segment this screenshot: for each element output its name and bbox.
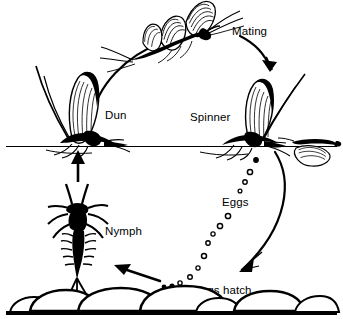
- lifecycle-illustration: Dun: [0, 0, 343, 319]
- egg-dot: [178, 281, 182, 285]
- label-dun: Dun: [105, 109, 126, 121]
- egg-dot: [243, 180, 247, 184]
- label-spinner: Spinner: [190, 111, 230, 123]
- egg-dot: [211, 232, 215, 236]
- label-nymph: Nymph: [105, 225, 142, 237]
- egg-dot: [188, 275, 193, 280]
- egg-dot: [196, 266, 200, 270]
- riverbed-baseline: [6, 311, 337, 315]
- egg-dot: [225, 213, 230, 218]
- egg-dot: [253, 157, 259, 163]
- egg-dot: [217, 223, 222, 228]
- mayfly-lifecycle-diagram: Dun: [0, 0, 343, 319]
- egg-dot: [238, 189, 242, 193]
- egg-dot: [247, 169, 252, 174]
- label-eggs: Eggs: [222, 196, 249, 208]
- label-mating: Mating: [232, 25, 267, 37]
- egg-dot: [202, 254, 207, 259]
- egg-dot: [206, 241, 210, 245]
